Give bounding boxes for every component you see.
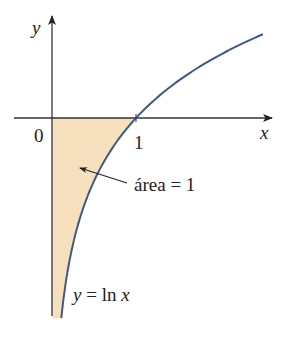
tick-one-label: 1 [134, 132, 144, 153]
y-axis-label: y [30, 17, 41, 38]
x-axis-label: x [259, 122, 269, 143]
area-label: área = 1 [134, 174, 195, 195]
ln-area-diagram: y x 0 1 área = 1 y = ln x [0, 0, 300, 337]
origin-label: 0 [34, 125, 44, 146]
function-label: y = ln x [71, 284, 130, 305]
